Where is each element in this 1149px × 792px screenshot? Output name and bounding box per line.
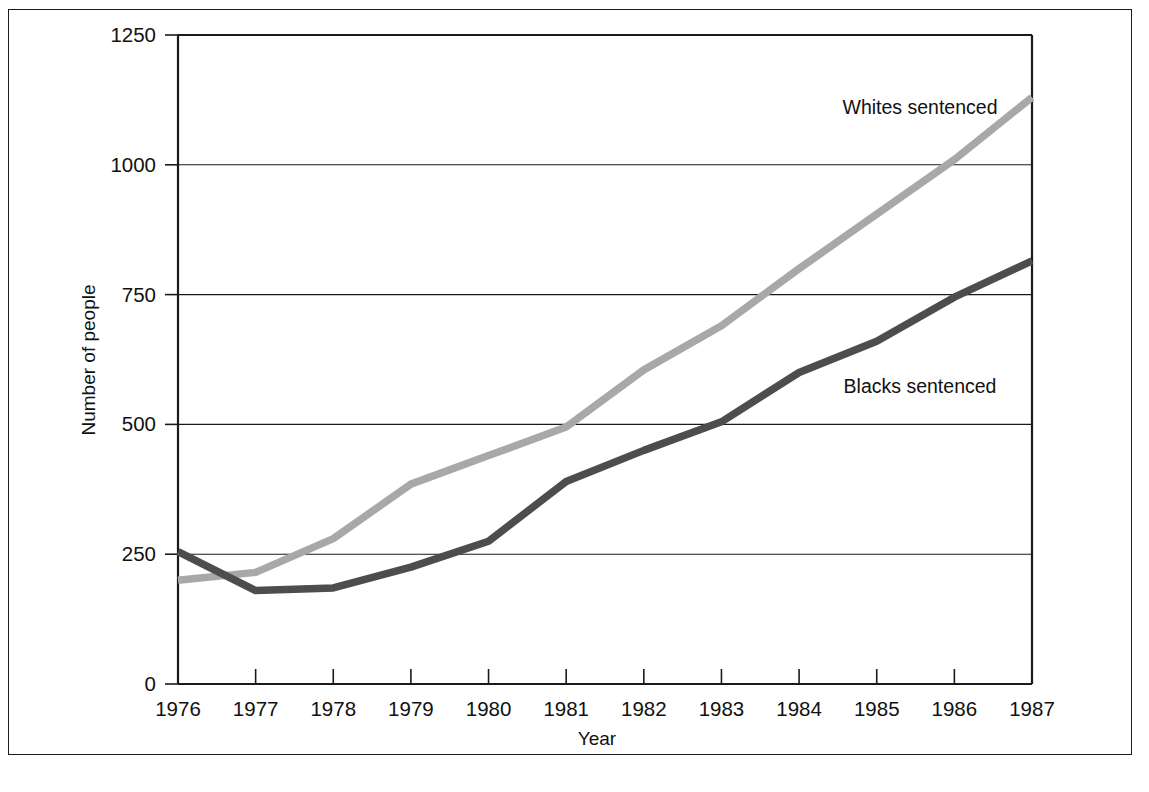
annotation-whites-sentenced: Whites sentenced: [842, 96, 997, 118]
y-axis-title: Number of people: [78, 284, 99, 435]
series-line-blacks-sentenced: [178, 261, 1032, 591]
annotation-blacks-sentenced: Blacks sentenced: [844, 375, 997, 397]
x-tick-label-1983: 1983: [699, 697, 745, 720]
x-tick-label-1977: 1977: [233, 697, 279, 720]
x-tick-label-1982: 1982: [621, 697, 667, 720]
x-tick-label-1985: 1985: [854, 697, 900, 720]
x-tick-labels-group: 1976197719781979198019811982198319841985…: [155, 697, 1055, 720]
y-tick-label-1250: 1250: [110, 23, 156, 46]
x-tick-label-1981: 1981: [543, 697, 589, 720]
x-tick-label-1976: 1976: [155, 697, 201, 720]
x-tick-label-1984: 1984: [776, 697, 822, 720]
y-tick-label-0: 0: [145, 672, 156, 695]
line-chart: 025050075010001250 197619771978197919801…: [0, 0, 1149, 792]
data-series-group: [178, 97, 1032, 590]
x-tick-marks-group: [178, 669, 1032, 684]
x-tick-label-1986: 1986: [932, 697, 978, 720]
y-tick-marks-group: [165, 35, 178, 684]
y-tick-label-250: 250: [122, 542, 156, 565]
x-tick-label-1987: 1987: [1009, 697, 1055, 720]
figure-container: 025050075010001250 197619771978197919801…: [0, 0, 1149, 792]
y-tick-label-500: 500: [122, 412, 156, 435]
x-tick-label-1979: 1979: [388, 697, 434, 720]
y-tick-label-750: 750: [122, 283, 156, 306]
y-tick-label-1000: 1000: [110, 153, 156, 176]
x-tick-label-1978: 1978: [310, 697, 356, 720]
y-tick-labels-group: 025050075010001250: [110, 23, 156, 695]
x-axis-title: Year: [578, 728, 617, 749]
series-line-whites-sentenced: [178, 97, 1032, 580]
x-tick-label-1980: 1980: [466, 697, 512, 720]
